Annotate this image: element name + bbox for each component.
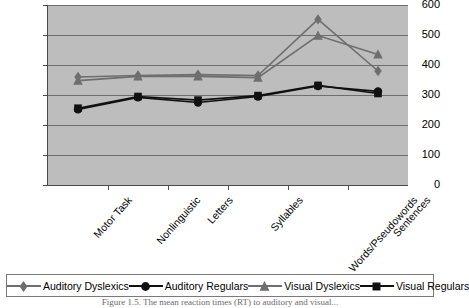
- legend-label: Visual Regulars: [394, 280, 469, 292]
- series-line: [78, 19, 378, 77]
- legend-entry[interactable]: Auditory Regulars: [129, 279, 248, 293]
- triangle-marker: [260, 281, 270, 291]
- x-tick-label: Nonlinguistic: [154, 194, 203, 246]
- x-tick-label: Words/Pseudowords: [346, 194, 420, 274]
- legend-label: Auditory Dyslexics: [41, 280, 129, 292]
- legend-key: [248, 279, 282, 293]
- legend-square-icon: [371, 281, 382, 292]
- square-marker: [372, 282, 380, 290]
- legend-diamond-icon: [18, 281, 29, 292]
- square-marker: [314, 82, 322, 90]
- series-visual-regulars: [74, 82, 382, 112]
- x-tick-label: Letters: [205, 194, 235, 226]
- square-marker: [134, 93, 142, 101]
- legend-entry[interactable]: Visual Dyslexics: [248, 279, 360, 293]
- triangle-marker: [313, 30, 323, 39]
- diamond-marker: [374, 66, 381, 76]
- square-marker: [374, 90, 382, 98]
- legend-entry[interactable]: Auditory Dyslexics: [7, 279, 129, 293]
- legend-key: [360, 279, 394, 293]
- square-marker: [254, 92, 262, 100]
- legend-entry[interactable]: Visual Regulars: [360, 279, 469, 293]
- series-auditory-dyslexics: [74, 14, 381, 82]
- x-axis-labels-group: Motor TaskNonlinguisticLettersSyllablesW…: [0, 190, 440, 270]
- legend-label: Visual Dyslexics: [282, 280, 360, 292]
- circle-marker: [141, 282, 150, 291]
- chart-legend: Auditory DyslexicsAuditory RegularsVisua…: [6, 274, 434, 297]
- x-tick-label: Motor Task: [91, 194, 134, 240]
- legend-circle-icon: [140, 281, 151, 292]
- chart-plot-area: 0100200300400500600: [0, 0, 440, 195]
- figure-caption: Figure 1.5. The mean reaction times (RT)…: [0, 297, 440, 307]
- legend-label: Auditory Regulars: [163, 280, 248, 292]
- square-marker: [74, 104, 82, 112]
- series-line: [78, 85, 378, 108]
- diamond-marker: [314, 14, 321, 24]
- square-marker: [194, 96, 202, 104]
- legend-key: [129, 279, 163, 293]
- x-tick-label: Syllables: [268, 194, 305, 233]
- legend-triangle-icon: [259, 281, 270, 292]
- series-line: [78, 36, 378, 81]
- legend-key: [7, 279, 41, 293]
- series-lines-group: [0, 0, 440, 195]
- diamond-marker: [20, 281, 28, 292]
